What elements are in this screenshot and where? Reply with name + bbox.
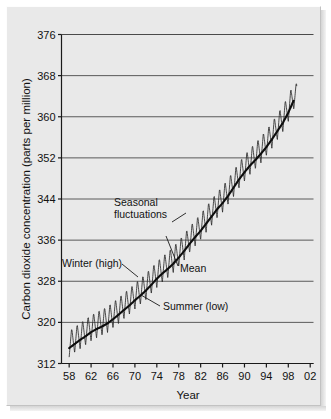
x-tick-label: 74 xyxy=(151,370,163,382)
x-tick-label: 62 xyxy=(85,370,97,382)
x-tick-label: 02 xyxy=(304,370,316,382)
x-tick-label: 94 xyxy=(260,370,272,382)
y-tick-label: 336 xyxy=(37,234,55,246)
x-tick-label: 98 xyxy=(282,370,294,382)
figure-frame: 312320328336344352360368376 586266707478… xyxy=(0,0,331,419)
annotation-winter-high: Winter (high) xyxy=(62,257,138,277)
x-tick-label: 70 xyxy=(129,370,141,382)
annotation-seasonal-fluctuations: Seasonalfluctuations xyxy=(114,196,186,222)
co2-concentration-chart: 312320328336344352360368376 586266707478… xyxy=(0,0,331,419)
annotation-label: Summer (low) xyxy=(163,300,228,312)
y-tick-label: 312 xyxy=(37,358,55,370)
x-axis xyxy=(62,364,314,368)
y-tick-label: 360 xyxy=(37,111,55,123)
x-axis-tick-labels: 586266707478828690949802 xyxy=(63,370,316,382)
y-axis xyxy=(58,35,62,364)
y-tick-label: 320 xyxy=(37,316,55,328)
annotation-label: Mean xyxy=(180,262,206,274)
annotation-leader-line xyxy=(122,264,138,277)
y-tick-label: 328 xyxy=(37,275,55,287)
series-seasonal-fluctuations xyxy=(69,84,297,357)
annotation-label: Seasonalfluctuations xyxy=(114,196,167,220)
y-axis-tick-labels: 312320328336344352360368376 xyxy=(37,29,55,370)
x-tick-label: 78 xyxy=(173,370,185,382)
annotation-leader-line xyxy=(141,295,160,306)
annotation-leader-line xyxy=(172,213,186,222)
y-tick-label: 352 xyxy=(37,152,55,164)
annotation-summer-low: Summer (low) xyxy=(141,295,228,312)
y-tick-label: 376 xyxy=(37,29,55,41)
annotation-label: Winter (high) xyxy=(62,257,122,269)
y-tick-label: 344 xyxy=(37,193,55,205)
x-axis-title: Year xyxy=(176,389,199,401)
x-tick-label: 86 xyxy=(216,370,228,382)
y-tick-label: 368 xyxy=(37,70,55,82)
annotation-mean: Mean xyxy=(166,236,206,274)
y-axis-title: Carbon dioxide concentration (parts per … xyxy=(20,78,32,320)
x-tick-label: 58 xyxy=(63,370,75,382)
x-tick-label: 82 xyxy=(195,370,207,382)
x-tick-label: 90 xyxy=(238,370,250,382)
x-tick-label: 66 xyxy=(107,370,119,382)
